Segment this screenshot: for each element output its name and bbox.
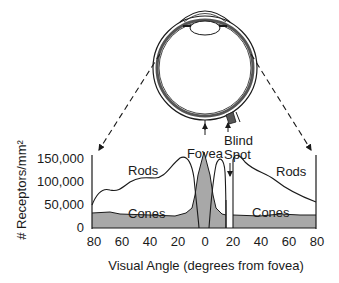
right-visual-field-line [251, 54, 311, 150]
svg-text:0: 0 [77, 220, 84, 235]
svg-text:0: 0 [201, 234, 208, 249]
cones-label-right: Cones [252, 205, 290, 220]
receptor-density-figure: Fovea Blind Spot Rods Rods Cones Cones 1… [0, 0, 339, 283]
y-tick-labels: 150,000 100,000 50,000 0 [37, 151, 84, 235]
blind-spot-label-line1: Blind [224, 133, 253, 148]
left-visual-field-line [99, 54, 160, 150]
svg-text:80: 80 [310, 234, 324, 249]
x-tick-labels: 80 60 40 20 0 20 40 60 80 [87, 234, 324, 249]
rods-label-left: Rods [128, 163, 159, 178]
receptor-chart: Rods Rods Cones Cones 150,000 100,000 50… [14, 139, 324, 273]
svg-text:80: 80 [87, 234, 101, 249]
svg-text:100,000: 100,000 [37, 174, 84, 189]
blind-spot-label-line2: Spot [224, 147, 251, 162]
svg-text:20: 20 [171, 234, 185, 249]
svg-text:40: 40 [254, 234, 268, 249]
cones-label-left: Cones [128, 206, 166, 221]
eye-diagram [153, 11, 257, 124]
x-axis-title: Visual Angle (degrees from fovea) [108, 258, 304, 273]
svg-text:150,000: 150,000 [37, 151, 84, 166]
svg-text:20: 20 [226, 234, 240, 249]
svg-text:60: 60 [282, 234, 296, 249]
svg-text:60: 60 [115, 234, 129, 249]
rods-label-right: Rods [276, 164, 307, 179]
svg-text:40: 40 [143, 234, 157, 249]
svg-text:50,000: 50,000 [44, 197, 84, 212]
y-axis-title: # Receptors/mm² [14, 139, 29, 239]
